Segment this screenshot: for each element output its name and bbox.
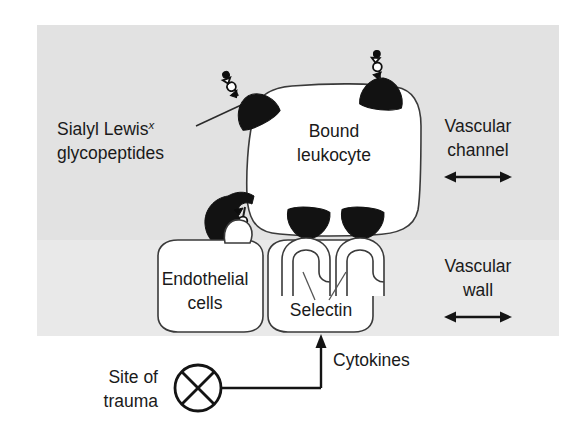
glycopeptides-label: glycopeptides bbox=[57, 143, 164, 163]
sialyl-lewis-label-text: Sialyl Lewis bbox=[57, 119, 149, 139]
trauma-marker-icon bbox=[175, 365, 221, 411]
selectin-label: Selectin bbox=[290, 300, 352, 320]
vascular-channel-label-line2: channel bbox=[447, 140, 508, 160]
selectin-receptor-left bbox=[282, 238, 330, 296]
leukocyte-label-line1: Bound bbox=[309, 121, 360, 141]
cytokines-label: Cytokines bbox=[333, 350, 410, 370]
vascular-wall-label-line1: Vascular bbox=[445, 256, 512, 276]
cytokine-pipe bbox=[221, 334, 327, 388]
cytokine-arrow-icon bbox=[316, 334, 327, 348]
selectin-receptor-right bbox=[336, 238, 384, 296]
endothelial-ligand-bump bbox=[224, 220, 252, 243]
vascular-channel-label-line1: Vascular bbox=[445, 116, 512, 136]
leukocyte-label-line2: leukocyte bbox=[297, 145, 371, 165]
figure-root: Bound leukocyte bbox=[0, 0, 564, 444]
endothelial-label-line2: cells bbox=[187, 293, 222, 313]
sialyl-lewis-label: Sialyl Lewisx bbox=[57, 119, 155, 139]
trauma-label-line1: Site of bbox=[108, 367, 158, 387]
vascular-wall-label-line2: wall bbox=[462, 280, 493, 300]
trauma-label-line2: trauma bbox=[104, 391, 159, 411]
endothelial-label-line1: Endothelial bbox=[162, 269, 249, 289]
diagram-canvas: Bound leukocyte bbox=[0, 0, 564, 444]
